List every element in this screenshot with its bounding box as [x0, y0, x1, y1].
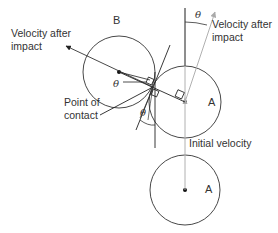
right-angle-marker-a: [175, 90, 184, 99]
theta-arc-bottom: [140, 120, 155, 125]
theta-a-top-label: θ: [195, 8, 201, 21]
theta-arc-top: [185, 22, 207, 25]
theta-b-label: θ: [113, 77, 119, 90]
velocity-after-a-label-line2: impact: [212, 31, 243, 44]
ball-a-initial-label: A: [205, 183, 212, 196]
theta-bottom-label: θ: [140, 106, 146, 119]
velocity-after-a-label-line1: Velocity after: [212, 18, 272, 31]
point-of-contact-label-line2: contact: [64, 109, 98, 122]
velocity-after-b-label-line2: impact: [11, 40, 42, 53]
velocity-after-b-line: [66, 46, 153, 87]
ball-a-after-label: A: [208, 96, 215, 109]
initial-velocity-label: Initial velocity: [189, 137, 251, 150]
ball-b-label: B: [113, 14, 120, 27]
velocity-after-b-label-line1: Velocity after: [11, 27, 71, 40]
velocity-after-a-line: [185, 12, 215, 102]
point-of-contact-label-line1: Point of: [64, 96, 100, 109]
